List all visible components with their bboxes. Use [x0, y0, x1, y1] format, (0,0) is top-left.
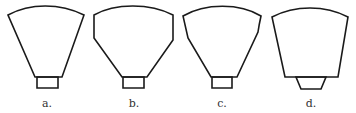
label-b: b. [129, 97, 140, 110]
panel-c [183, 6, 261, 88]
shape-a-outline [8, 6, 84, 77]
panel-b [94, 6, 173, 88]
label-a: a. [42, 97, 52, 110]
shape-d-outline [272, 8, 348, 77]
panel-a [8, 6, 84, 88]
shape-d-base [296, 77, 326, 89]
shape-c-base [212, 77, 232, 88]
panel-d [272, 8, 348, 89]
label-d: d. [306, 97, 317, 110]
shape-a-base [37, 77, 58, 88]
shape-b-outline [94, 6, 173, 77]
shape-b-base [123, 77, 144, 88]
shape-c-outline [183, 6, 261, 77]
figure-canvas [0, 0, 356, 113]
label-c: c. [217, 97, 227, 110]
